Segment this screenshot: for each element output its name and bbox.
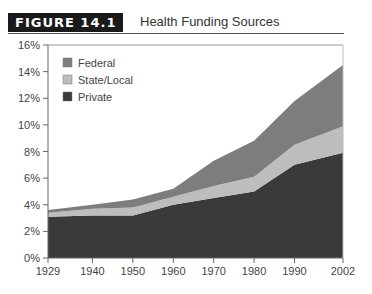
legend-swatch-federal [63,58,72,67]
y-tick-label: 12% [18,92,40,104]
y-tick-label: 10% [18,119,40,131]
x-tick-label: 1980 [242,265,266,277]
legend-label: Federal [78,57,115,69]
y-tick-label: 16% [18,39,40,51]
x-tick-label: 1970 [201,265,225,277]
x-tick-label: 1960 [161,265,185,277]
x-tick-label: 1950 [121,265,145,277]
legend-label: Private [78,91,112,103]
y-tick-label: 4% [24,199,40,211]
stacked-area-chart: 0%2%4%6%8%10%12%14%16%192919401950196019… [0,0,372,294]
x-tick-label: 2002 [331,265,355,277]
x-tick-label: 1940 [80,265,104,277]
legend-swatch-state-local [63,75,72,84]
legend-label: State/Local [78,74,133,86]
y-tick-label: 0% [24,252,40,264]
x-tick-label: 1990 [282,265,306,277]
y-tick-label: 8% [24,146,40,158]
y-tick-label: 14% [18,66,40,78]
y-tick-label: 6% [24,172,40,184]
x-tick-label: 1929 [36,265,60,277]
y-tick-label: 2% [24,225,40,237]
chart-legend: FederalState/LocalPrivate [63,57,133,103]
legend-swatch-private [63,92,72,101]
